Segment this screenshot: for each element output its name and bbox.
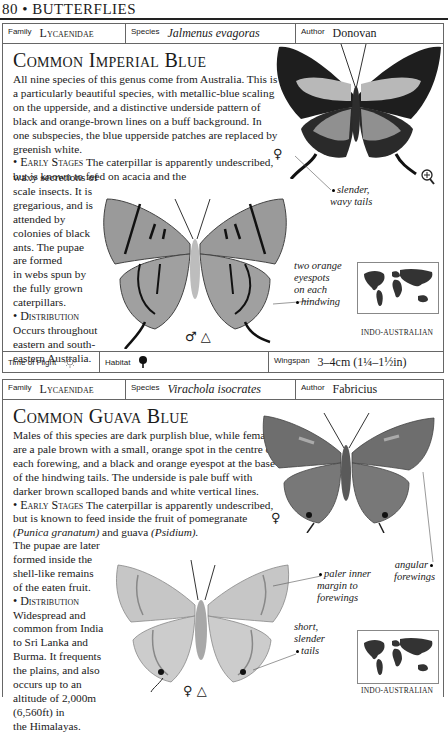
annotation-line: forewings: [317, 592, 371, 604]
annotation-line: on each: [294, 284, 342, 296]
early-stages-text: and guava: [99, 526, 151, 538]
annotation-line: tails: [301, 645, 319, 656]
world-map-icon: [360, 266, 436, 310]
text-line: waxy secretions of: [13, 171, 133, 185]
annotation-line: eyespots: [294, 272, 342, 284]
map-region-label: INDO-AUSTRALIAN: [361, 686, 433, 695]
family-value: Lycaenidae: [40, 382, 94, 397]
annotation-angular-forewings: angular forewings: [394, 559, 435, 583]
distribution-map: [357, 262, 439, 314]
annotation-line: slender: [294, 633, 325, 645]
butterfly-underside-illustration: [113, 560, 293, 695]
text-line: (6,560ft) in: [13, 706, 133, 720]
time-of-flight-cell: Time of Flight: [3, 352, 100, 372]
header-rule: [0, 18, 448, 20]
habitat-label: Habitat: [105, 358, 130, 367]
annotation-short-slender-tails: short, slender tails: [294, 621, 325, 657]
family-value: Lycaenidae: [40, 26, 94, 41]
entry-common-guava-blue: Family Lycaenidae Species Virachola isoc…: [2, 379, 444, 697]
tree-icon: [138, 356, 148, 368]
female-symbol: ♀: [271, 510, 281, 525]
annotation-line: angular: [395, 559, 428, 570]
annotation-line: wavy tails: [330, 196, 372, 208]
annotation-line: short,: [294, 621, 325, 633]
text-line: The pupae are later: [13, 539, 133, 553]
map-region-label: INDO-AUSTRALIAN: [361, 328, 433, 337]
scientific-name: (Psidium).: [151, 526, 198, 538]
butterfly-upperside-illustration: [259, 408, 437, 533]
family-cell: Family Lycaenidae: [3, 24, 126, 43]
page-number: 80: [2, 1, 18, 17]
magnifier-icon: [421, 169, 435, 185]
family-cell: Family Lycaenidae: [3, 380, 126, 399]
species-value: Virachola isocrates: [167, 382, 260, 397]
entry-header: Family Lycaenidae Species Virachola isoc…: [3, 380, 443, 400]
entry-footer: Time of Flight Habitat Wingspan 3–4cm (1…: [3, 351, 443, 372]
description: Males of this species are dark purplish …: [13, 429, 278, 540]
early-stages: • Early Stages The caterpillar is appare…: [13, 499, 278, 541]
description: All nine species of this genus come from…: [13, 73, 278, 184]
time-of-flight-label: Time of Flight: [8, 358, 56, 367]
annotation-slender-wavy-tails: slender, wavy tails: [330, 184, 372, 208]
intro-text: Males of this species are dark purplish …: [13, 429, 278, 499]
annotation-leader-line: [253, 652, 298, 672]
annotation-paler-inner-margin: paler inner margin to forewings: [317, 568, 371, 604]
world-map-icon: [360, 635, 436, 679]
male-triangle-symbol: ♂ △: [185, 329, 211, 344]
wingspan-label: Wingspan: [274, 356, 310, 365]
author-label: Author: [301, 383, 325, 392]
section-title: BUTTERFLIES: [32, 1, 136, 17]
species-label: Species: [131, 383, 159, 392]
page-header: 80 • BUTTERFLIES: [0, 0, 448, 18]
annotation-two-orange-eyespots: two orange eyespots on each hindwing: [294, 260, 342, 308]
species-value: Jalmenus evagoras: [167, 26, 259, 41]
species-title: Common Imperial Blue: [13, 49, 206, 72]
author-cell: Author Fabricius: [296, 380, 443, 399]
annotation-leader-line: [273, 574, 323, 588]
annotation-line: two orange: [294, 260, 342, 272]
butterfly-underside-illustration: [95, 194, 295, 349]
species-title: Common Guava Blue: [13, 405, 189, 428]
annotation-line: paler inner: [324, 568, 371, 579]
annotation-leader-line: [293, 154, 333, 194]
author-label: Author: [301, 27, 325, 36]
annotation-line: margin to: [317, 580, 371, 592]
early-stages-heading: • Early Stages: [13, 155, 83, 169]
annotation-line: hindwing: [301, 296, 340, 307]
family-label: Family: [8, 27, 32, 36]
female-symbol: ♀: [273, 146, 283, 161]
annotation-line: slender,: [337, 184, 369, 195]
family-label: Family: [8, 383, 32, 392]
author-value: Fabricius: [333, 382, 378, 397]
annotation-leader-line: [421, 470, 436, 565]
text-line: the Himalayas.: [13, 720, 133, 734]
entry-common-imperial-blue: Family Lycaenidae Species Jalmenus evago…: [2, 23, 444, 373]
wingspan-value: 3–4cm (1¼–1½in): [318, 355, 407, 370]
distribution-map: [357, 630, 439, 684]
sun-icon: [64, 356, 76, 368]
annotation-line: forewings: [394, 571, 435, 583]
separator: •: [22, 1, 28, 17]
species-label: Species: [131, 27, 159, 36]
scientific-name: (Punica granatum): [13, 526, 99, 538]
habitat-cell: Habitat: [100, 352, 269, 372]
wingspan-cell: Wingspan 3–4cm (1¼–1½in): [269, 352, 443, 372]
early-stages-heading: • Early Stages: [13, 498, 83, 512]
species-cell: Species Virachola isocrates: [126, 380, 296, 399]
female-triangle-symbol: ♀ △: [183, 683, 207, 698]
intro-text: All nine species of this genus come from…: [13, 73, 278, 156]
